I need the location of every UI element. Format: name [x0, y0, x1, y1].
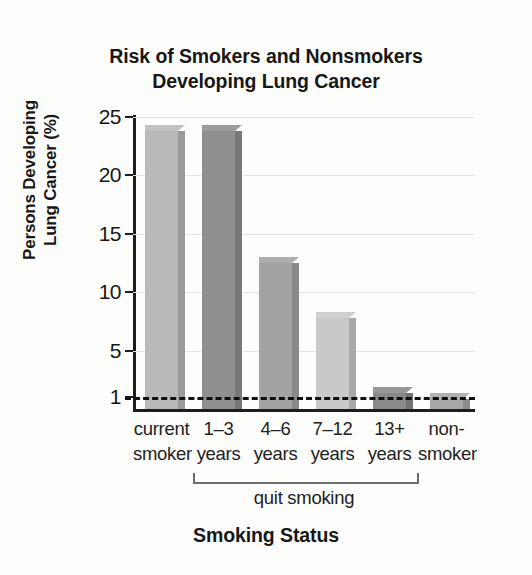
x-axis-label-line: smoker	[133, 441, 190, 466]
y-axis-tick-label: 20	[99, 163, 121, 187]
bar	[316, 318, 349, 409]
y-axis-tick	[125, 233, 133, 235]
x-axis-label-3: 7–12years	[304, 416, 361, 466]
bar-front-face	[373, 393, 406, 409]
x-axis-label-line: non-	[418, 416, 475, 441]
y-axis-title: Persons Developing Lung Cancer (%)	[19, 65, 79, 295]
bar-side-face	[178, 131, 185, 409]
x-axis-label-line: years	[304, 441, 361, 466]
x-axis-label-line: 13+	[361, 416, 418, 441]
x-axis-label-1: 1–3years	[190, 416, 247, 466]
bar-top-face	[373, 387, 406, 393]
bar-top-face	[202, 125, 235, 131]
x-axis-line	[133, 409, 475, 412]
x-axis-label-line: years	[190, 441, 247, 466]
bar-front-face	[145, 131, 178, 409]
quit-smoking-bracket	[193, 473, 419, 484]
y-axis-tick-label: 10	[99, 280, 121, 304]
x-axis-label-4: 13+years	[361, 416, 418, 466]
y-axis-line	[133, 115, 136, 409]
bar	[373, 393, 406, 409]
reference-line-at-1	[125, 397, 475, 400]
x-axis-label-line: years	[361, 441, 418, 466]
bar-corner-bevel	[178, 125, 185, 131]
chart-title-line-2: Developing Lung Cancer	[0, 69, 532, 94]
bar-corner-bevel	[292, 257, 299, 263]
x-axis-label-0: currentsmoker	[133, 416, 190, 466]
x-axis-label-line: 7–12	[304, 416, 361, 441]
bar-corner-bevel	[406, 387, 413, 393]
bar-front-face	[316, 318, 349, 409]
bar-side-face	[235, 131, 242, 409]
x-axis-label-line: current	[133, 416, 190, 441]
plot-area: 2520151051	[133, 117, 475, 409]
bar-corner-bevel	[235, 125, 242, 131]
y-axis-tick	[125, 291, 133, 293]
bar-side-face	[349, 318, 356, 409]
x-axis-label-line: years	[247, 441, 304, 466]
bar-side-face	[292, 263, 299, 409]
x-axis-label-2: 4–6years	[247, 416, 304, 466]
x-axis-label-5: non-smoker	[418, 416, 475, 466]
y-axis-tick-label: 1	[110, 385, 121, 409]
quit-smoking-label: quit smoking	[193, 487, 415, 509]
y-axis-tick-label: 5	[110, 339, 121, 363]
y-axis-tick-label: 15	[99, 222, 121, 246]
y-axis-tick	[125, 116, 133, 118]
bar	[145, 131, 178, 409]
x-axis-title: Smoking Status	[0, 524, 532, 547]
bar-corner-bevel	[349, 312, 356, 318]
bar-side-face	[406, 393, 413, 409]
bar-top-face	[259, 257, 292, 263]
chart-title: Risk of Smokers and Nonsmokers Developin…	[0, 44, 532, 94]
bar-top-face	[145, 125, 178, 131]
y-axis-title-line-1: Persons Developing	[19, 65, 40, 295]
bar-front-face	[259, 263, 292, 409]
x-axis-label-line: 4–6	[247, 416, 304, 441]
chart-title-line-1: Risk of Smokers and Nonsmokers	[0, 44, 532, 69]
y-axis-tick	[125, 174, 133, 176]
bar	[202, 131, 235, 409]
x-axis-label-line: smoker	[418, 441, 475, 466]
y-axis-tick	[125, 350, 133, 352]
chart-figure: Risk of Smokers and Nonsmokers Developin…	[0, 0, 532, 575]
bar	[259, 263, 292, 409]
bar-top-face	[316, 312, 349, 318]
gridline	[133, 117, 475, 118]
bar-front-face	[202, 131, 235, 409]
y-axis-title-line-2: Lung Cancer (%)	[40, 65, 61, 295]
x-axis-label-line: 1–3	[190, 416, 247, 441]
y-axis-tick-label: 25	[99, 105, 121, 129]
